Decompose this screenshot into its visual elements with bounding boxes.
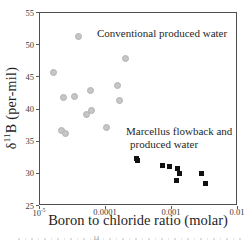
- series-label-marcellus: Marcellus flowback and produced water: [126, 125, 232, 151]
- y-axis-title: δ11B (per-mil): [2, 67, 20, 149]
- x-tick-label: 10-5: [33, 207, 46, 218]
- y-tick-mark: [36, 12, 40, 13]
- scatter-figure: Conventional produced water Marcellus fl…: [0, 0, 251, 242]
- x-tick-mark: [39, 206, 40, 209]
- data-point-circle: [88, 107, 95, 114]
- y-tick-label: 30: [26, 168, 35, 178]
- series-label-marcellus-line1: Marcellus flowback and: [126, 125, 232, 138]
- y-tick-mark: [36, 173, 40, 174]
- data-point-square: [174, 178, 179, 183]
- y-axis-title-delta: δ: [4, 142, 19, 149]
- x-tick-label: 0.01: [230, 207, 245, 217]
- data-point-circle: [60, 94, 67, 101]
- data-point-square: [203, 181, 208, 186]
- data-point-square: [177, 171, 182, 176]
- data-point-circle: [122, 55, 129, 62]
- x-tick-mark: [171, 206, 172, 209]
- data-point-circle: [116, 97, 123, 104]
- x-tick-label: 0.001: [161, 207, 180, 217]
- x-axis-title: Boron to chloride ratio (molar): [48, 212, 228, 229]
- y-tick-label: 45: [26, 72, 35, 82]
- cut-off-caption-glyph-tops: [18, 238, 246, 240]
- data-point-circle: [114, 82, 121, 89]
- data-point-square: [160, 163, 165, 168]
- cut-off-caption: 11: [0, 233, 251, 242]
- y-tick-mark: [36, 109, 40, 110]
- series-label-conventional: Conventional produced water: [97, 27, 227, 40]
- data-point-square: [199, 171, 204, 176]
- y-tick-mark: [36, 44, 40, 45]
- x-tick-label: 0.0001: [93, 207, 116, 217]
- data-point-circle: [71, 93, 78, 100]
- y-tick-label: 40: [26, 104, 35, 114]
- y-axis-title-superscript: 11: [2, 133, 12, 142]
- data-point-circle: [50, 69, 57, 76]
- data-point-circle: [87, 87, 94, 94]
- y-axis-title-rest: B (per-mil): [4, 67, 19, 133]
- x-tick-mark: [237, 206, 238, 209]
- x-tick-mark: [105, 206, 106, 209]
- y-tick-mark: [36, 76, 40, 77]
- y-tick-label: 50: [26, 40, 35, 50]
- y-tick-mark: [36, 141, 40, 142]
- data-point-square: [135, 158, 140, 163]
- series-label-marcellus-line2: produced water: [126, 138, 232, 151]
- x-tick-label-superscript: -5: [41, 207, 45, 213]
- data-point-circle: [75, 33, 82, 40]
- y-tick-label: 55: [26, 8, 35, 18]
- plot-area: Conventional produced water Marcellus fl…: [39, 12, 237, 205]
- y-tick-label: 35: [26, 136, 35, 146]
- data-point-square: [167, 164, 172, 169]
- data-point-circle: [103, 124, 110, 131]
- data-point-circle: [62, 130, 69, 137]
